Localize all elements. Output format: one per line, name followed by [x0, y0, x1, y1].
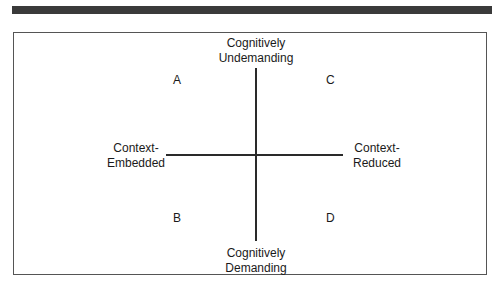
horizontal-axis-line — [166, 154, 343, 156]
top-bar — [12, 6, 492, 14]
axis-label-top: Cognitively Undemanding — [206, 36, 306, 66]
quadrant-label-d: D — [326, 211, 335, 225]
axis-label-left: Context- Embedded — [106, 141, 166, 171]
axis-label-right: Context- Reduced — [347, 141, 407, 171]
quadrant-label-a: A — [173, 73, 181, 87]
axis-label-bottom: Cognitively Demanding — [206, 246, 306, 276]
quadrant-label-b: B — [173, 211, 181, 225]
quadrant-label-c: C — [326, 73, 335, 87]
